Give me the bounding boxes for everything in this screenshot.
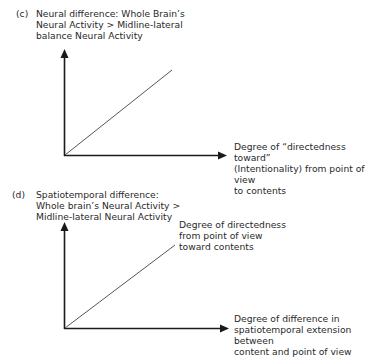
panel-c-y-arrowhead-icon xyxy=(61,49,69,58)
panel-d-y-arrowhead-icon xyxy=(61,222,69,231)
panel-c-trend-line xyxy=(65,70,172,155)
panel-c-x-arrowhead-icon xyxy=(218,152,227,160)
panel-d-axes xyxy=(61,222,230,333)
panel-d-x-arrowhead-icon xyxy=(220,325,229,333)
panel-d-trend-line xyxy=(65,245,175,328)
panel-c-axes xyxy=(61,49,228,160)
